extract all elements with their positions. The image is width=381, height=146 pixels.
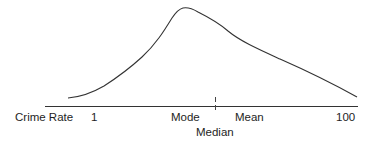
median-label: Median [196,126,234,139]
x-axis-title: Crime Rate [15,111,73,124]
mean-label: Mean [235,111,264,124]
distribution-curve [68,8,357,98]
tick-label-min: 1 [91,111,97,124]
chart-plot [0,0,381,146]
tick-label-max: 100 [336,111,355,124]
mode-label: Mode [171,111,200,124]
